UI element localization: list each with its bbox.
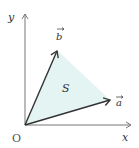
svg-text:b: b <box>56 31 62 42</box>
x-axis-label: x <box>122 131 129 144</box>
origin-label: O <box>12 132 21 145</box>
vector-area-diagram: y x O b a S <box>0 0 139 148</box>
svg-text:a: a <box>116 97 122 108</box>
area-label: S <box>62 82 70 95</box>
vector-b-label: b <box>56 28 64 43</box>
vector-a-label: a <box>116 96 123 109</box>
y-axis-label: y <box>7 11 15 24</box>
